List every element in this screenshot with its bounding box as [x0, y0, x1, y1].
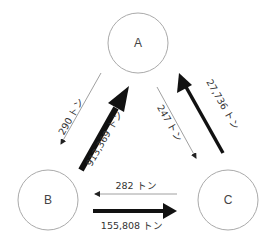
node-c-label: C: [224, 193, 233, 207]
node-b-label: B: [44, 193, 52, 207]
edge-label-b-to-a: 913,369 トン: [84, 109, 125, 168]
edge-label-c-to-b: 282 トン: [115, 180, 156, 191]
node-a: A: [108, 13, 168, 73]
node-a-label: A: [134, 36, 142, 50]
edge-b-to-c: 155,808 トン: [93, 203, 177, 231]
edge-label-a-to-b: 290 トン: [56, 96, 86, 137]
node-b: B: [18, 170, 78, 230]
edge-a-to-b: 290 トン: [56, 73, 101, 144]
edge-label-a-to-c: 247 トン: [155, 103, 185, 144]
edge-c-to-b: 282 トン: [95, 180, 177, 194]
flow-diagram: A B C 290 トン 913,369 トン 247 トン 27,736 トン…: [0, 0, 270, 238]
edge-b-to-a: 913,369 トン: [81, 86, 129, 170]
node-c: C: [198, 170, 258, 230]
edge-label-c-to-a: 27,736 トン: [204, 77, 242, 131]
edge-label-b-to-c: 155,808 トン: [101, 220, 163, 231]
edge-a-to-c: 247 トン: [155, 87, 196, 158]
